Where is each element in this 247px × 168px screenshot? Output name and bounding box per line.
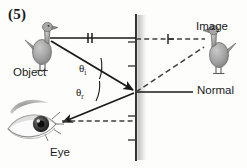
- object-duck-beak: [52, 26, 58, 30]
- eye-illustration: [8, 100, 64, 141]
- image-duck-legs: [213, 67, 225, 74]
- eye-label: Eye: [50, 146, 70, 158]
- angle-reflection-arc: [96, 81, 100, 101]
- angle-incidence-arc: [100, 58, 102, 79]
- image-duck: [203, 25, 236, 73]
- reflected-ray: [63, 93, 134, 122]
- eyebrow: [10, 100, 48, 114]
- image-label: Image: [196, 20, 228, 32]
- angle-of-incidence-label: θi: [79, 62, 86, 74]
- theta-subscript-incidence: i: [84, 68, 86, 77]
- mirror-reflection-figure: (5): [0, 0, 247, 168]
- eye-highlight: [37, 119, 40, 122]
- object-duck-eye: [48, 25, 50, 27]
- image-duck-tail: [228, 43, 237, 53]
- normal-label: Normal: [197, 84, 234, 96]
- mirror-backing: [138, 15, 147, 160]
- angle-of-reflection-label: θr: [76, 86, 84, 98]
- object-duck-head: [43, 22, 53, 31]
- image-distance-tick: [168, 34, 174, 44]
- object-duck-tail: [25, 40, 34, 50]
- object-duck: [25, 22, 58, 70]
- mirror-hatch-ticks: [128, 42, 136, 140]
- incident-ray: [51, 41, 133, 90]
- theta-subscript-reflection: r: [81, 92, 84, 101]
- object-label: Object: [13, 66, 46, 78]
